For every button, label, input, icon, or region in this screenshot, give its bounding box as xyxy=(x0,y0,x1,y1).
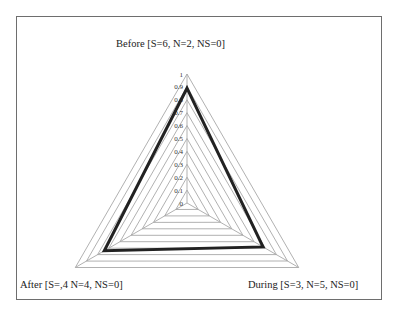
radial-tick-label: 0.1 xyxy=(174,187,183,195)
radial-tick-label: 0.2 xyxy=(174,174,183,182)
radial-tick-label: 0.4 xyxy=(174,148,183,156)
radial-tick-label: 1 xyxy=(180,71,184,79)
axis-label-during: During [S=3, N=5, NS=0] xyxy=(248,279,358,290)
radial-tick-label: 0.5 xyxy=(174,135,183,143)
axis-label-after: After [S=,4 N=4, NS=0] xyxy=(20,279,123,290)
radar-spokes xyxy=(75,74,298,268)
axis-label-before: Before [S=6, N=2, NS=0] xyxy=(116,38,225,49)
radial-tick-label: 0.6 xyxy=(174,122,183,130)
radial-tick-labels: 00.10.20.30.40.50.60.70.80.91 xyxy=(174,71,183,208)
radial-tick-label: 0.3 xyxy=(174,161,183,169)
radial-tick-label: 0 xyxy=(180,200,184,208)
radial-tick-label: 0.9 xyxy=(174,83,183,91)
